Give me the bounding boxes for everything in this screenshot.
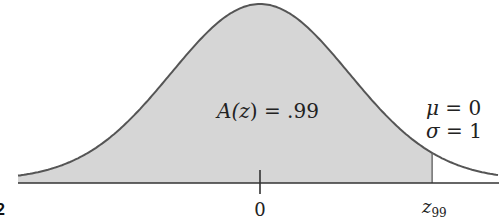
corner-fragment: 2 bbox=[0, 201, 5, 218]
mu-label: μ = 0 bbox=[426, 96, 481, 120]
area-label: A(z) = .99 bbox=[215, 99, 319, 123]
sigma-label: σ = 1 bbox=[426, 119, 482, 143]
tick-label-z99: z99 bbox=[421, 196, 447, 219]
normal-distribution-chart: A(z) = .99 μ = 0 σ = 1 0 z99 2 bbox=[0, 0, 499, 219]
tick-label-zero: 0 bbox=[254, 199, 265, 219]
